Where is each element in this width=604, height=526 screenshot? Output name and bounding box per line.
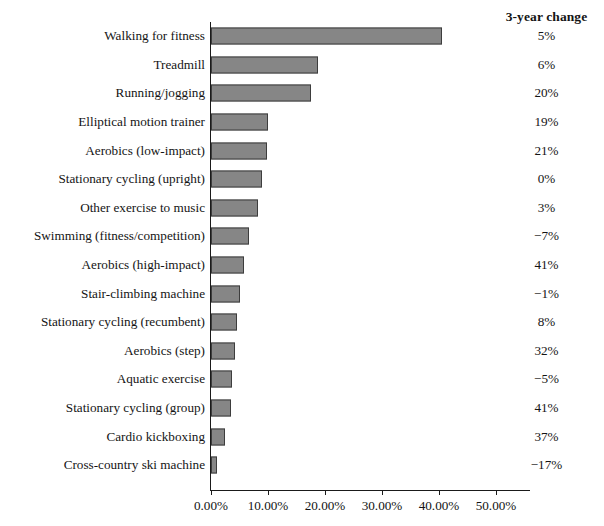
- change-value: 41%: [489, 258, 604, 271]
- bar: [211, 85, 311, 102]
- category-label: Aerobics (low-impact): [85, 144, 205, 157]
- table-row: Aquatic exercise−5%: [0, 365, 604, 394]
- bar: [211, 228, 249, 245]
- category-label: Stationary cycling (recumbent): [41, 316, 205, 329]
- category-label: Treadmill: [153, 58, 205, 71]
- category-label: Aerobics (step): [124, 344, 205, 357]
- bar: [211, 171, 262, 188]
- change-value: 19%: [489, 115, 604, 128]
- category-label: Elliptical motion trainer: [78, 115, 205, 128]
- x-axis-tick: [211, 490, 212, 495]
- bar: [211, 28, 442, 45]
- category-label: Cardio kickboxing: [106, 430, 205, 443]
- change-value: −1%: [489, 287, 604, 300]
- x-axis-tick: [439, 490, 440, 495]
- x-axis-tick: [496, 490, 497, 495]
- change-value: 8%: [489, 316, 604, 329]
- table-row: Stair-climbing machine−1%: [0, 279, 604, 308]
- category-label: Stair-climbing machine: [81, 287, 205, 300]
- table-row: Other exercise to music3%: [0, 194, 604, 223]
- bar: [211, 257, 244, 274]
- change-value: −17%: [489, 459, 604, 472]
- category-label: Aquatic exercise: [117, 373, 205, 386]
- table-row: Stationary cycling (recumbent)8%: [0, 308, 604, 337]
- x-axis-tick: [382, 490, 383, 495]
- category-label: Other exercise to music: [80, 201, 205, 214]
- table-row: Stationary cycling (upright)0%: [0, 165, 604, 194]
- category-label: Aerobics (high-impact): [82, 258, 205, 271]
- category-label: Swimming (fitness/competition): [34, 230, 205, 243]
- table-row: Walking for fitness5%: [0, 22, 604, 51]
- change-value: 5%: [489, 30, 604, 43]
- bar: [211, 285, 240, 302]
- x-axis-line: [210, 490, 530, 491]
- change-value: 6%: [489, 58, 604, 71]
- change-value: 20%: [489, 87, 604, 100]
- bar: [211, 371, 232, 388]
- category-label: Cross-country ski machine: [64, 459, 205, 472]
- change-value: 41%: [489, 401, 604, 414]
- x-axis-tick: [268, 490, 269, 495]
- table-row: Elliptical motion trainer19%: [0, 108, 604, 137]
- bar: [211, 342, 235, 359]
- bar: [211, 428, 225, 445]
- change-value: −7%: [489, 230, 604, 243]
- category-label: Stationary cycling (upright): [59, 173, 206, 186]
- change-value: 3%: [489, 201, 604, 214]
- bar: [211, 142, 267, 159]
- bar: [211, 114, 268, 131]
- change-value: −5%: [489, 373, 604, 386]
- table-row: Treadmill6%: [0, 51, 604, 80]
- x-axis-tick: [325, 490, 326, 495]
- table-row: Aerobics (high-impact)41%: [0, 251, 604, 280]
- change-value: 37%: [489, 430, 604, 443]
- table-row: Cardio kickboxing37%: [0, 422, 604, 451]
- bar: [211, 199, 258, 216]
- table-row: Running/jogging20%: [0, 79, 604, 108]
- table-row: Aerobics (low-impact)21%: [0, 136, 604, 165]
- category-label: Running/jogging: [116, 87, 205, 100]
- table-row: Cross-country ski machine−17%: [0, 451, 604, 480]
- bar-chart-figure: 3-year change Walking for fitness5%Tread…: [0, 0, 604, 526]
- change-value: 32%: [489, 344, 604, 357]
- category-label: Walking for fitness: [104, 30, 205, 43]
- bar: [211, 314, 237, 331]
- bar: [211, 56, 318, 73]
- table-row: Aerobics (step)32%: [0, 337, 604, 366]
- table-row: Swimming (fitness/competition)−7%: [0, 222, 604, 251]
- category-label: Stationary cycling (group): [66, 401, 205, 414]
- table-row: Stationary cycling (group)41%: [0, 394, 604, 423]
- change-value: 0%: [489, 173, 604, 186]
- bar: [211, 457, 217, 474]
- bar: [211, 400, 231, 417]
- change-value: 21%: [489, 144, 604, 157]
- x-axis-tick-label: 50.00%: [461, 498, 531, 514]
